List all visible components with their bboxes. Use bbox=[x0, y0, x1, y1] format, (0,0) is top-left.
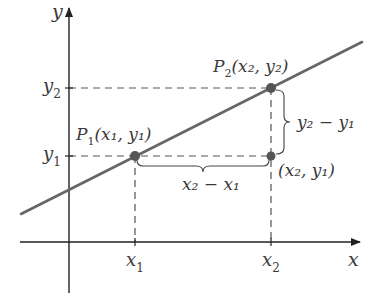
point-p1 bbox=[130, 151, 140, 161]
label-p1: P1(x₁, y₁) bbox=[75, 124, 151, 148]
point-p2 bbox=[266, 83, 276, 93]
tick-label-x2: x2 bbox=[262, 249, 280, 275]
horizontal-brace bbox=[137, 160, 269, 172]
slope-diagram: y x x1 x2 y1 y2 P1(x₁, y₁) P2(x₂, y₂) (x… bbox=[0, 0, 374, 307]
horizontal-difference-label: x₂ − x₁ bbox=[182, 174, 240, 194]
vertical-brace bbox=[276, 90, 290, 154]
vertical-difference-label: y₂ − y₁ bbox=[296, 112, 355, 132]
dashed-guides bbox=[69, 88, 271, 242]
point-corner bbox=[267, 152, 276, 161]
tick-label-y1: y1 bbox=[42, 143, 61, 169]
x-axis-label: x bbox=[348, 248, 359, 270]
tick-marks bbox=[65, 88, 271, 246]
label-corner: (x₂, y₁) bbox=[278, 160, 335, 180]
tick-label-y2: y2 bbox=[42, 75, 61, 101]
diagram-svg: y x x1 x2 y1 y2 P1(x₁, y₁) P2(x₂, y₂) (x… bbox=[0, 0, 374, 307]
y-axis-label: y bbox=[51, 0, 63, 22]
tick-label-x1: x1 bbox=[126, 249, 144, 275]
label-p2: P2(x₂, y₂) bbox=[212, 56, 288, 80]
